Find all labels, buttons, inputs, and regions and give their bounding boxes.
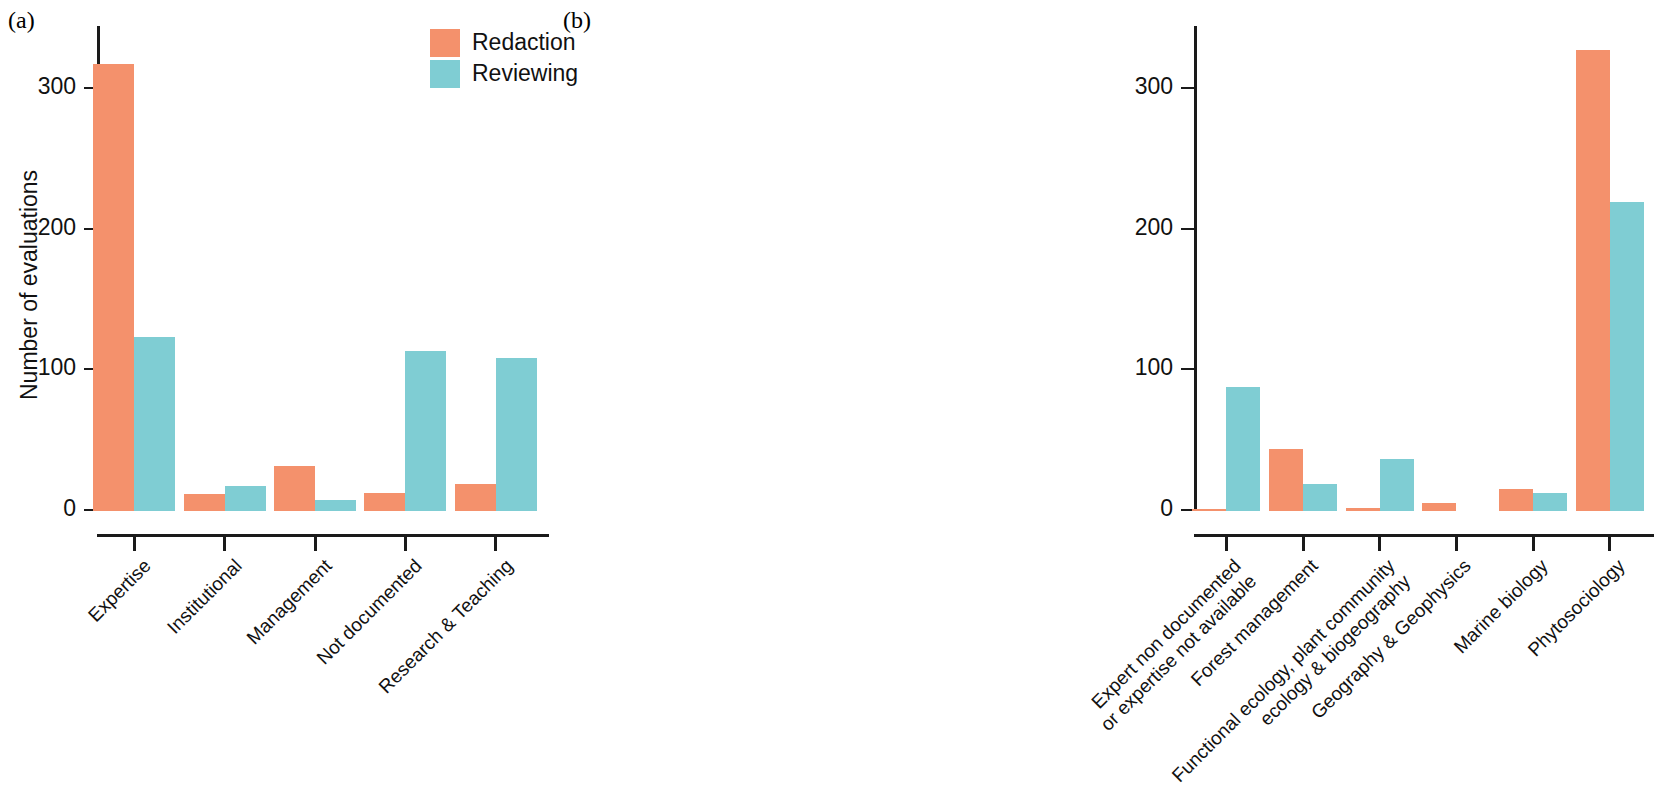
- bar-reviewing-2: [1380, 459, 1414, 511]
- bar-reviewing-2: [315, 500, 356, 511]
- bar-redaction-0: [93, 64, 134, 511]
- bar-reviewing-4: [496, 358, 537, 511]
- x-axis-labels-b: Expert non documentedor expertise not av…: [1194, 511, 1654, 711]
- panel-b: (b) 0100200300 Expert non documentedor e…: [553, 0, 1107, 737]
- redaction-swatch-icon: [430, 29, 460, 57]
- bar-reviewing-0: [134, 337, 175, 511]
- y-tick-label: 300: [38, 75, 76, 97]
- x-axis-label-2: Management: [38, 555, 336, 787]
- x-label-line: Management: [38, 555, 336, 787]
- bar-redaction-1: [184, 494, 225, 511]
- bar-reviewing-5: [1610, 202, 1644, 511]
- bar-redaction-2: [274, 466, 315, 511]
- panel-b-tag: (b): [563, 8, 591, 32]
- bar-reviewing-0: [1226, 387, 1260, 511]
- x-axis-label-3: Not documented: [129, 555, 427, 787]
- y-tick: 300: [1181, 87, 1194, 89]
- y-tick-label: 0: [63, 497, 76, 519]
- x-label-line: Research & Teaching: [219, 555, 517, 787]
- y-tick-label: 100: [1135, 356, 1173, 378]
- bar-redaction-3: [364, 493, 405, 511]
- plot-area-b: 0100200300 Expert non documentedor exper…: [1194, 26, 1654, 511]
- y-tick-label: 200: [1135, 216, 1173, 238]
- bar-group-a: [97, 26, 549, 511]
- bar-redaction-1: [1269, 449, 1303, 511]
- bar-group-b: [1194, 26, 1654, 511]
- bar-reviewing-1: [225, 486, 266, 511]
- bar-redaction-4: [1499, 489, 1533, 511]
- y-tick-label: 300: [1135, 75, 1173, 97]
- reviewing-swatch-icon: [430, 60, 460, 88]
- bar-reviewing-3: [405, 351, 446, 511]
- x-label-line: Not documented: [129, 555, 427, 787]
- bar-reviewing-1: [1303, 484, 1337, 511]
- x-axis-label-4: Research & Teaching: [219, 555, 517, 787]
- y-tick-label: 100: [38, 356, 76, 378]
- plot-area-a: 0100200300 ExpertiseInstitutionalManagem…: [97, 26, 549, 511]
- y-tick: 100: [1181, 368, 1194, 370]
- panel-a: (a) Number of evaluations 0100200300 Exp…: [0, 0, 553, 737]
- x-axis-labels-a: ExpertiseInstitutionalManagementNot docu…: [97, 511, 549, 711]
- bar-redaction-4: [455, 484, 496, 511]
- panel-a-tag: (a): [8, 8, 35, 32]
- bar-reviewing-4: [1533, 493, 1567, 511]
- y-tick-label: 0: [1160, 497, 1173, 519]
- bar-redaction-5: [1576, 50, 1610, 511]
- y-tick-label: 200: [38, 216, 76, 238]
- y-tick: 200: [1181, 228, 1194, 230]
- bar-redaction-3: [1422, 503, 1456, 511]
